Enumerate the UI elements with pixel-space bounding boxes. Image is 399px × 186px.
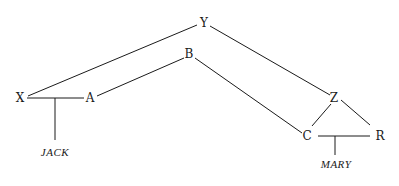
node-x: X: [16, 91, 25, 105]
edge-z-c: [312, 104, 331, 126]
leaf-mary: MARY: [320, 158, 353, 170]
edge-a-b: [97, 58, 184, 96]
node-b: B: [185, 47, 194, 61]
node-a: A: [85, 91, 95, 105]
leaf-jack: JACK: [41, 146, 69, 158]
edge-z-r: [341, 100, 370, 125]
edge-y-z: [210, 26, 330, 95]
node-c: C: [302, 129, 311, 143]
edge-x-y: [28, 25, 197, 96]
node-r: R: [375, 129, 385, 143]
node-z: Z: [330, 91, 338, 105]
node-y: Y: [199, 16, 209, 30]
graph-diagram: X A Y B Z C R JACK MARY: [0, 0, 399, 186]
